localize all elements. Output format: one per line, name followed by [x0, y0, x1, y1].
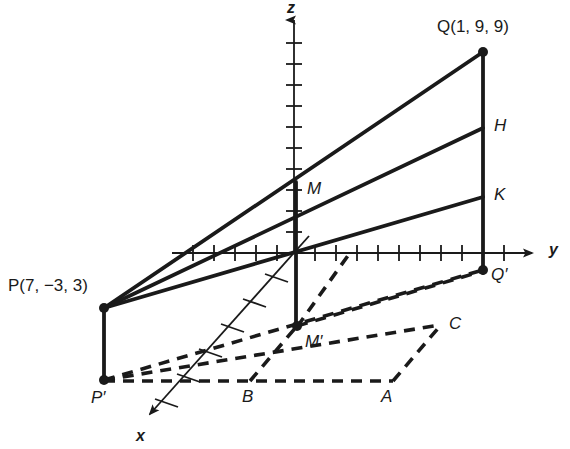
- x-axis-label: x: [136, 428, 145, 444]
- point-label-M: M: [307, 180, 321, 197]
- segment-Pprime-Mprime-C: [104, 325, 440, 380]
- point-label-Q: Q(1, 9, 9): [437, 18, 509, 35]
- point-label-B: B: [242, 388, 253, 405]
- segment-A-C: [393, 326, 440, 381]
- y-axis-label: y: [549, 242, 558, 258]
- point-label-P: P(7, −3, 3): [8, 277, 88, 294]
- dot-Mprime: [292, 321, 302, 331]
- diagram-svg: [0, 0, 570, 449]
- figure-canvas: z y x Q(1, 9, 9) P(7, −3, 3) H K M M′ Q′…: [0, 0, 570, 449]
- point-label-C: C: [449, 315, 461, 332]
- dot-Qprime: [478, 265, 488, 275]
- dot-Q: [478, 47, 488, 57]
- z-axis-label: z: [287, 0, 295, 16]
- dot-P: [99, 303, 109, 313]
- point-label-A: A: [381, 388, 392, 405]
- axis-y: [172, 245, 532, 261]
- point-label-Mprime: M′: [305, 333, 322, 350]
- point-label-Pprime: P′: [91, 389, 106, 406]
- point-label-Qprime: Q′: [491, 266, 507, 283]
- point-label-H: H: [494, 117, 506, 134]
- dot-Pprime: [99, 375, 109, 385]
- point-label-K: K: [494, 186, 505, 203]
